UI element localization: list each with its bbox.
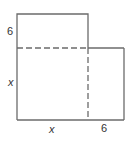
label-bottom-right: 6	[101, 122, 107, 134]
label-left-top: 6	[7, 25, 13, 37]
diagram-canvas: 6 x x 6	[0, 0, 132, 143]
label-left-middle: x	[7, 76, 14, 88]
figure-svg: 6 x x 6	[0, 0, 132, 143]
top-rectangle-outline	[17, 14, 88, 48]
label-bottom-left: x	[48, 123, 55, 135]
